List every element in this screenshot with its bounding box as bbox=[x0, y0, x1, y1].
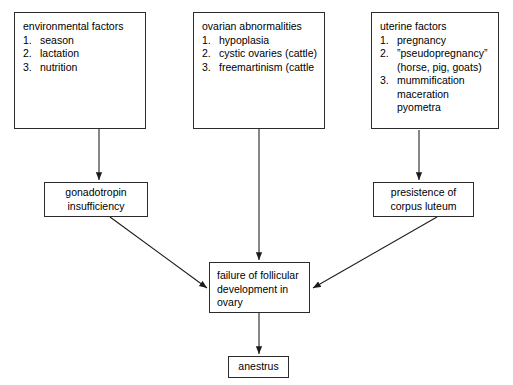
item-number: 1. bbox=[23, 34, 32, 48]
environmental-factors-header: environmental factors bbox=[23, 20, 145, 34]
list-item: 2. lactation bbox=[23, 47, 145, 61]
list-item: 3. nutrition bbox=[23, 61, 145, 75]
ovarian-abnormalities-list: 1. hypoplasia 2. cystic ovaries (cattle)… bbox=[202, 34, 324, 75]
list-item: 2. cystic ovaries (cattle) bbox=[202, 47, 324, 61]
item-number: 2. bbox=[202, 47, 211, 61]
corpus-luteum-line-1: presistence of bbox=[391, 186, 456, 200]
list-item: 2. ”pseudopregnancy” (horse, pig, goats) bbox=[380, 47, 498, 74]
item-number: 1. bbox=[380, 34, 389, 48]
gonadotropin-line-1: gonadotropin bbox=[65, 186, 126, 200]
box-ovarian-abnormalities: ovarian abnormalities 1. hypoplasia 2. c… bbox=[193, 12, 325, 129]
item-subtext: (horse, pig, goats) bbox=[397, 61, 498, 75]
list-item: 1. hypoplasia bbox=[202, 34, 324, 48]
box-uterine-factors: uterine factors 1. pregnancy 2. ”pseudop… bbox=[371, 12, 499, 129]
box-gonadotropin-insufficiency: gonadotropin insufficiency bbox=[44, 182, 148, 217]
uterine-factors-header: uterine factors bbox=[380, 20, 498, 34]
failure-line-2: development in bbox=[217, 283, 309, 297]
item-number: 3. bbox=[23, 61, 32, 75]
list-item: 3. mummification maceration pyometra bbox=[380, 74, 498, 115]
item-text: cystic ovaries (cattle) bbox=[219, 47, 317, 59]
box-anestrus: anestrus bbox=[228, 356, 289, 378]
gonadotropin-line-2: insufficiency bbox=[67, 200, 124, 214]
item-text: nutrition bbox=[40, 61, 77, 73]
item-text: freemartinism (cattle bbox=[219, 61, 314, 73]
box-failure-of-follicular-development: failure of follicular development in ova… bbox=[209, 262, 310, 313]
flowchart-canvas: environmental factors 1. season 2. lacta… bbox=[0, 0, 513, 385]
item-text: mummification bbox=[397, 74, 465, 86]
box-presistence-corpus-luteum: presistence of corpus luteum bbox=[373, 182, 474, 217]
uterine-factors-list: 1. pregnancy 2. ”pseudopregnancy” (horse… bbox=[380, 34, 498, 115]
arrow-corpus-luteum-to-failure bbox=[313, 217, 437, 288]
item-number: 3. bbox=[380, 74, 389, 88]
arrow-gonadotropin-to-failure bbox=[110, 217, 207, 288]
environmental-factors-list: 1. season 2. lactation 3. nutrition bbox=[23, 34, 145, 75]
anestrus-label: anestrus bbox=[238, 360, 278, 374]
list-item: 1. season bbox=[23, 34, 145, 48]
list-item: 1. pregnancy bbox=[380, 34, 498, 48]
item-text: season bbox=[40, 34, 74, 46]
item-text: hypoplasia bbox=[219, 34, 269, 46]
item-subtext: pyometra bbox=[397, 101, 498, 115]
item-text: pregnancy bbox=[397, 34, 446, 46]
box-environmental-factors: environmental factors 1. season 2. lacta… bbox=[14, 12, 146, 129]
item-text: lactation bbox=[40, 47, 79, 59]
item-number: 2. bbox=[380, 47, 389, 61]
item-number: 3. bbox=[202, 61, 211, 75]
corpus-luteum-line-2: corpus luteum bbox=[391, 200, 457, 214]
item-subtext: maceration bbox=[397, 88, 498, 102]
list-item: 3. freemartinism (cattle bbox=[202, 61, 324, 75]
failure-line-3: ovary bbox=[217, 296, 309, 310]
item-text: ”pseudopregnancy” bbox=[397, 47, 487, 59]
ovarian-abnormalities-header: ovarian abnormalities bbox=[202, 20, 324, 34]
item-number: 2. bbox=[23, 47, 32, 61]
item-number: 1. bbox=[202, 34, 211, 48]
failure-line-1: failure of follicular bbox=[217, 269, 309, 283]
